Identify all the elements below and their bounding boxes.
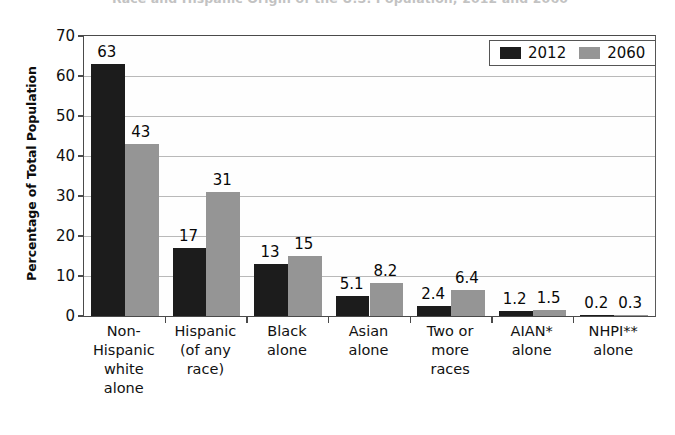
legend-swatch-icon-2060	[579, 47, 600, 59]
gridline	[84, 196, 655, 197]
bar-2060-5	[533, 310, 567, 316]
gridline	[84, 76, 655, 77]
x-axis-category-label: Non- Hispanic white alone	[93, 322, 155, 398]
y-axis-tick	[78, 195, 84, 196]
legend-label-2060: 2060	[607, 44, 645, 62]
bar-value-label: 63	[97, 43, 116, 61]
x-axis-tick	[573, 316, 574, 323]
y-axis-tick	[78, 275, 84, 276]
bar-value-label: 31	[213, 171, 232, 189]
y-axis-tick	[78, 75, 84, 76]
gridline	[84, 156, 655, 157]
bar-2012-0	[91, 64, 125, 316]
bar-2012-5	[499, 311, 533, 316]
bar-2060-4	[451, 290, 485, 316]
bar-value-label: 1.5	[537, 289, 561, 307]
bar-2060-1	[206, 192, 240, 316]
legend-swatch-icon-2012	[500, 47, 521, 59]
x-axis-tick	[328, 316, 329, 323]
legend-item-2060[interactable]: 2060	[579, 44, 645, 62]
bar-value-label: 0.2	[584, 294, 608, 312]
bar-value-label: 0.3	[618, 294, 642, 312]
bar-value-label: 13	[260, 243, 279, 261]
bar-2012-3	[336, 296, 370, 316]
x-axis-category-label: Two or more races	[427, 322, 474, 379]
x-axis-tick	[491, 316, 492, 323]
bar-value-label: 17	[179, 227, 198, 245]
x-axis-category-label: AIAN* alone	[511, 322, 553, 360]
y-axis-tick-label: 0	[65, 307, 75, 325]
y-axis-title: Percentage of Total Population	[24, 29, 39, 319]
bar-value-label: 6.4	[455, 269, 479, 287]
bar-2012-6	[580, 315, 614, 316]
y-axis-tick	[78, 315, 84, 316]
y-axis-tick	[78, 115, 84, 116]
x-axis-category-label: Black alone	[267, 322, 307, 360]
y-axis-tick-label: 50	[56, 107, 75, 125]
y-axis-tick	[78, 235, 84, 236]
bar-value-label: 15	[294, 235, 313, 253]
y-axis-tick-label: 40	[56, 147, 75, 165]
y-axis-tick-label: 20	[56, 227, 75, 245]
bar-value-label: 8.2	[373, 262, 397, 280]
gridline	[84, 236, 655, 237]
y-axis-tick-label: 30	[56, 187, 75, 205]
bar-value-label: 43	[131, 123, 150, 141]
plot-area: 010203040506070	[83, 35, 656, 317]
y-axis-tick-label: 70	[56, 27, 75, 45]
bar-value-label: 5.1	[340, 275, 364, 293]
legend-item-2012[interactable]: 2012	[500, 44, 566, 62]
y-axis-tick	[78, 35, 84, 36]
y-axis-tick-label: 10	[56, 267, 75, 285]
y-axis-tick-label: 60	[56, 67, 75, 85]
gridline	[84, 116, 655, 117]
y-axis-tick	[78, 155, 84, 156]
bar-2060-2	[288, 256, 322, 316]
bar-value-label: 2.4	[421, 285, 445, 303]
bar-chart-figure: Race and Hispanic Origin of the U.S. Pop…	[0, 0, 675, 435]
chart-legend: 2012 2060	[489, 40, 656, 66]
bar-2060-3	[370, 283, 404, 316]
x-axis-tick	[165, 316, 166, 323]
bar-2012-1	[173, 248, 207, 316]
x-axis-category-label: Hispanic (of any race)	[174, 322, 236, 379]
bar-2012-2	[254, 264, 288, 316]
x-axis-category-label: NHPI** alone	[589, 322, 638, 360]
x-axis-tick	[410, 316, 411, 323]
bar-value-label: 1.2	[503, 290, 527, 308]
legend-label-2012: 2012	[528, 44, 566, 62]
x-axis-tick	[246, 316, 247, 323]
bar-2060-0	[125, 144, 159, 316]
gridline	[84, 276, 655, 277]
bar-2012-4	[417, 306, 451, 316]
bar-2060-6	[614, 315, 648, 316]
x-axis-category-label: Asian alone	[349, 322, 389, 360]
chart-title: Race and Hispanic Origin of the U.S. Pop…	[60, 0, 620, 7]
